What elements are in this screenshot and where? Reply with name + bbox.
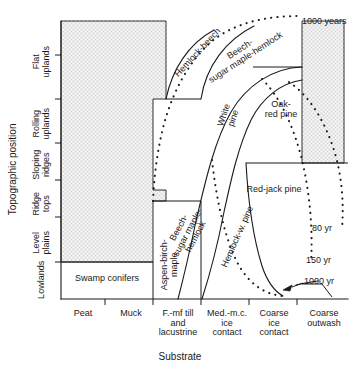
x-axis-ticks <box>105 299 297 305</box>
y-axis-title: Topographic position <box>8 112 19 227</box>
zone-label-oak-red-pine: Oak-red pine <box>253 100 309 119</box>
curve-hemlock-w-pine-outer <box>246 163 283 296</box>
leader-1000-yr-arrowhead <box>283 285 292 291</box>
x-axis-title: Substrate <box>150 352 210 363</box>
zone-label-red-jack-pine: Red-jack pine <box>234 185 314 195</box>
leader-1000-yr-tail <box>292 283 303 287</box>
stipple-region-right <box>302 21 344 163</box>
age-label-1000-years-top: 1000 years <box>302 17 347 27</box>
x-tick-coarse-outwash: Coarseoutwash <box>300 309 348 328</box>
x-tick-coarse-ice-contact: Coarseicecontact <box>252 309 296 338</box>
x-tick-muck: Muck <box>109 309 153 319</box>
x-tick-med-ice-contact: Med.-m.c.icecontact <box>203 309 251 338</box>
y-tick-flat-uplands: Flatuplands <box>32 38 51 86</box>
y-tick-rolling-uplands: Rollinguplands <box>32 96 51 152</box>
age-label-80-yr: 80 yr <box>312 224 332 234</box>
stipple-region-left <box>61 21 166 262</box>
age-label-1000-yr-bottom: 1000 yr <box>304 277 334 287</box>
age-label-150-yr: 150 yr <box>306 256 331 266</box>
succession-diagram: Topographic position Lowlands Levelplain… <box>0 0 354 373</box>
y-axis-ticks <box>55 55 61 262</box>
x-tick-peat: Peat <box>61 309 105 319</box>
x-tick-fmf-till: F.-mf tillandlacustrine <box>153 309 203 338</box>
zone-label-swamp-conifers: Swamp conifers <box>63 274 151 284</box>
